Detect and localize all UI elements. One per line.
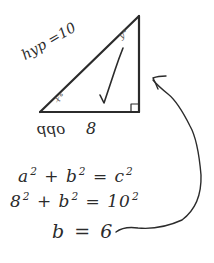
- check-mark-icon: [100, 48, 123, 103]
- eq2-base2: b: [59, 191, 71, 211]
- eq1-exp2: 2: [79, 165, 87, 177]
- opposite-side-label: opp: [37, 122, 65, 137]
- eq1-exp1: 2: [30, 165, 38, 177]
- bottom-side-value: 8: [86, 121, 96, 137]
- eq2-op: +: [37, 191, 52, 211]
- eq1-base1: a: [18, 166, 29, 186]
- eq2-base1: 8: [10, 191, 22, 211]
- right-angle-marker: [131, 104, 139, 112]
- eq1-rhs-base: c: [115, 166, 126, 186]
- eq1-rhs-exp: 2: [126, 165, 134, 177]
- result-equation: b = 6: [52, 222, 114, 241]
- eq2-exp2: 2: [71, 190, 79, 202]
- eq2-exp1: 2: [23, 190, 31, 202]
- pythagorean-equation: a2 + b2 = c2: [18, 168, 134, 185]
- eq2-rhs-base: 10: [107, 191, 131, 211]
- eq2-rhs-exp: 2: [132, 190, 140, 202]
- eq2-equals: =: [86, 191, 101, 211]
- eq1-base2: b: [66, 166, 78, 186]
- eq1-equals: =: [93, 166, 108, 186]
- eq1-op: +: [44, 166, 59, 186]
- substituted-equation: 82 + b2 = 102: [10, 193, 140, 210]
